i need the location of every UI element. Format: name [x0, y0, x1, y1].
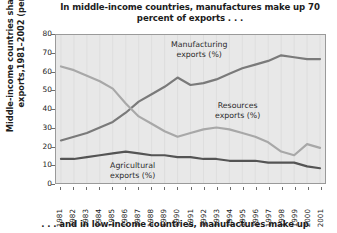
- x-tick-mark: [217, 187, 218, 190]
- chart-title-bottom: . . . and in low-income countries, manuf…: [20, 219, 330, 230]
- y-tick-label: 10: [36, 161, 52, 168]
- x-tick-mark: [151, 187, 152, 190]
- y-tick-label: 50: [36, 86, 52, 93]
- x-tick-mark: [321, 187, 322, 190]
- y-tick-label: 30: [36, 124, 52, 131]
- series-label-manufacturing: Manufacturing exports (%): [171, 40, 227, 59]
- x-tick-mark: [191, 187, 192, 190]
- series-label-manufacturing-line2: exports (%): [171, 50, 227, 60]
- series-label-resources-line2: exports (%): [215, 111, 260, 121]
- x-tick-mark: [308, 187, 309, 190]
- x-tick-mark: [282, 187, 283, 190]
- x-tick-mark: [125, 187, 126, 190]
- x-tick-mark: [86, 187, 87, 190]
- series-label-agricultural-line2: exports (%): [110, 171, 155, 181]
- x-tick-mark: [269, 187, 270, 190]
- y-tick-mark: [51, 184, 55, 185]
- x-tick-mark: [177, 187, 178, 190]
- x-tick-mark: [243, 187, 244, 190]
- x-tick-mark: [60, 187, 61, 190]
- y-tick-label: 60: [36, 68, 52, 75]
- chart-figure: In middle-income countries, manufactures…: [0, 0, 337, 233]
- x-tick-mark: [164, 187, 165, 190]
- x-tick-mark: [73, 187, 74, 190]
- y-axis-title-line1: Middle-income countries share of world: [5, 0, 16, 136]
- x-tick-mark: [295, 187, 296, 190]
- x-tick-mark: [138, 187, 139, 190]
- series-label-agricultural: Agricultural exports (%): [110, 161, 155, 180]
- y-tick-label: 40: [36, 105, 52, 112]
- series-label-resources-line1: Resources: [215, 101, 260, 111]
- y-axis-title-line2: exports,1981–2002 (percent): [15, 0, 26, 136]
- x-tick-mark: [204, 187, 205, 190]
- x-tick-mark: [112, 187, 113, 190]
- series-label-manufacturing-line1: Manufacturing: [171, 40, 227, 50]
- chart-title-top: In middle-income countries, manufactures…: [46, 2, 334, 24]
- y-axis-title: Middle-income countries share of world e…: [5, 0, 26, 136]
- series-label-agricultural-line1: Agricultural: [110, 161, 155, 171]
- y-tick-label: 20: [36, 143, 52, 150]
- chart-title-top-line1: In middle-income countries, manufactures…: [60, 2, 305, 12]
- x-tick-mark: [230, 187, 231, 190]
- x-tick-mark: [256, 187, 257, 190]
- series-label-resources: Resources exports (%): [215, 101, 260, 120]
- y-tick-label: 80: [36, 30, 52, 37]
- y-tick-label: 0: [36, 180, 52, 187]
- x-tick-mark: [99, 187, 100, 190]
- y-tick-label: 70: [36, 49, 52, 56]
